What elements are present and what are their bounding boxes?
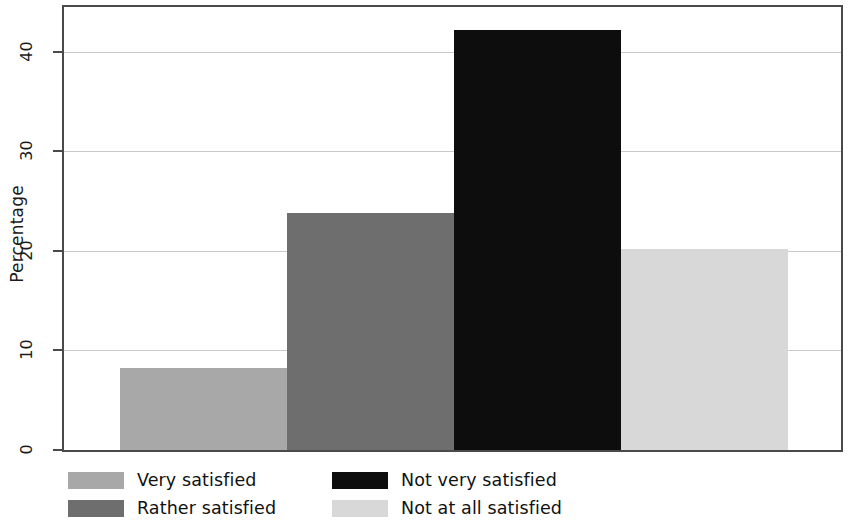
gridline [64, 52, 841, 53]
y-tick-label: 20 [17, 230, 36, 270]
legend-item[interactable]: Very satisfied [68, 468, 256, 492]
y-tick-label: 10 [17, 330, 36, 370]
y-tick-mark [53, 150, 62, 152]
legend-label: Not at all satisfied [401, 498, 562, 518]
legend-swatch-icon [332, 500, 388, 517]
y-tick-mark [53, 250, 62, 252]
plot-area [62, 5, 843, 452]
legend-swatch-icon [68, 500, 124, 517]
gridline [64, 151, 841, 152]
bar [454, 30, 621, 450]
legend-label: Rather satisfied [137, 498, 276, 518]
legend-item[interactable]: Rather satisfied [68, 496, 276, 520]
y-tick-mark [53, 349, 62, 351]
bar-chart: Percentage 403020100 Very satisfiedRathe… [0, 0, 850, 528]
y-tick-label: 30 [17, 131, 36, 171]
y-tick-label: 40 [17, 31, 36, 71]
legend-item[interactable]: Not very satisfied [332, 468, 557, 492]
legend-swatch-icon [68, 472, 124, 489]
bar [621, 249, 788, 450]
legend-label: Not very satisfied [401, 470, 557, 490]
y-tick-mark [53, 449, 62, 451]
legend-swatch-icon [332, 472, 388, 489]
y-tick-label: 0 [17, 430, 36, 470]
y-tick-mark [53, 51, 62, 53]
legend-item[interactable]: Not at all satisfied [332, 496, 562, 520]
bar [287, 213, 454, 450]
legend: Very satisfiedRather satisfiedNot very s… [62, 466, 843, 526]
bar [120, 368, 287, 450]
legend-label: Very satisfied [137, 470, 256, 490]
